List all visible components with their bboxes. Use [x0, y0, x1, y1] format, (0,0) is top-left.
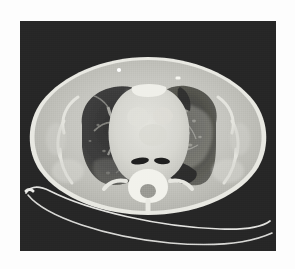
- screenshot-root: [0, 0, 295, 269]
- table-tip: [26, 190, 33, 192]
- pulmonary-artery: [153, 107, 173, 125]
- spinal-canal: [140, 184, 156, 198]
- skin-marker-anterior-left: [117, 68, 121, 72]
- skin-marker-anterior-right: [176, 77, 181, 80]
- ct-scan-image: [20, 21, 276, 251]
- ascending-aorta: [127, 107, 149, 127]
- ct-scan-canvas: [20, 21, 276, 251]
- heart-chamber: [139, 124, 167, 146]
